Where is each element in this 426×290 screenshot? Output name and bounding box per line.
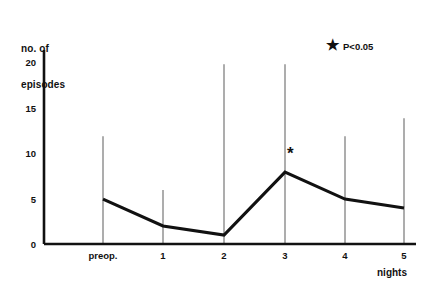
axis-lines xyxy=(44,50,416,244)
chart-container: no. of episodes 20 15 10 5 0 preop. 1 2 … xyxy=(0,0,426,290)
error-bars xyxy=(103,64,404,244)
data-series-line xyxy=(103,172,404,235)
chart-plot-area xyxy=(0,0,426,290)
